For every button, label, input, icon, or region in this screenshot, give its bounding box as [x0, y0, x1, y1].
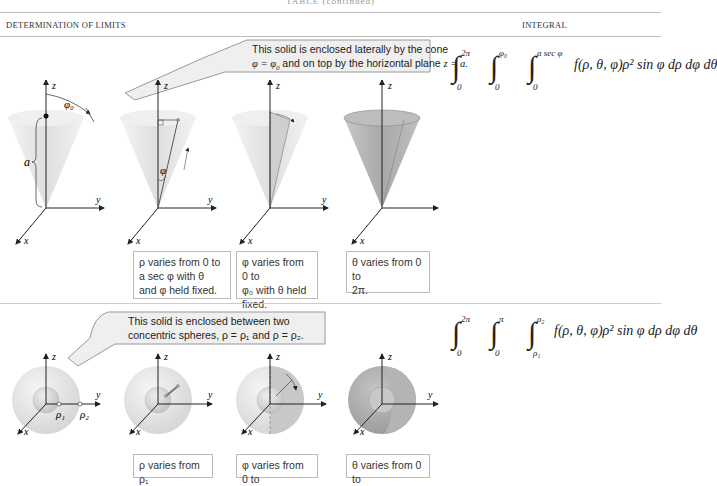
svg-text:y: y: [317, 389, 323, 400]
svg-text:z: z: [387, 351, 392, 362]
callout-cone: This solid is enclosed laterally by the …: [248, 40, 433, 72]
svg-text:x: x: [247, 235, 253, 246]
svg-text:x: x: [247, 426, 253, 437]
header-rule-bottom: [0, 36, 661, 37]
label-phi0: φ₀: [64, 98, 74, 110]
label-rho2: ρ₂: [79, 408, 89, 420]
svg-text:z: z: [163, 351, 168, 362]
callout-cone-line2: φ = φ0 and on top by the horizontal plan…: [252, 56, 429, 75]
callout-spheres-line1: This solid is enclosed between two: [128, 314, 324, 328]
label-y: y: [95, 194, 101, 205]
cone-figure-4: z x: [344, 80, 438, 246]
svg-text:z: z: [387, 80, 392, 91]
svg-text:z: z: [51, 351, 56, 362]
svg-text:y: y: [207, 194, 213, 205]
svg-text:z: z: [275, 351, 280, 362]
svg-text:z: z: [275, 80, 280, 91]
svg-text:x: x: [135, 426, 141, 437]
sphere-figure-3: z y x: [236, 351, 326, 437]
cone-figure-2: z φ y x: [120, 80, 216, 246]
caption-rho-spheres: ρ varies from ρ₁: [133, 454, 213, 478]
triple-integral-spheres: ∫2π0∫π0∫ρ₂ρ₁f(ρ, θ, φ)ρ² sin φ dρ dφ dθ: [452, 316, 697, 350]
sphere-figure-4: z y x: [348, 351, 438, 437]
callout-spheres-line2: concentric spheres, ρ = ρ₁ and ρ = ρ₂.: [128, 328, 324, 342]
label-rho1: ρ₁: [55, 408, 65, 420]
callout-cone-line1: This solid is enclosed laterally by the …: [252, 42, 429, 56]
sphere-figure-1: z y x ρ₁ ρ₂: [12, 351, 101, 437]
x-axis: [16, 208, 46, 244]
label-phi: φ: [160, 164, 166, 176]
sphere-figure-2: z y x: [124, 351, 213, 437]
label-x: x: [23, 235, 29, 246]
sphere-figures: z y x ρ₁ ρ₂ z y x z y x: [0, 350, 440, 450]
integrand-spheres: f(ρ, θ, φ)ρ² sin φ dρ dφ dθ: [554, 323, 697, 338]
section-divider: [0, 303, 661, 304]
cone-figures: z φ₀ a y x z φ y x z y x: [0, 80, 440, 250]
header-rule-top: [0, 12, 661, 13]
caption-theta-spheres: θ varies from 0 to: [346, 454, 430, 478]
svg-text:x: x: [135, 235, 141, 246]
running-header: TABLE (continued): [0, 0, 661, 6]
cone-figure-1: z φ₀ a y x: [8, 80, 104, 246]
label-a: a: [24, 155, 30, 169]
svg-text:x: x: [359, 426, 365, 437]
caption-phi-spheres: φ varies from 0 to: [236, 454, 318, 478]
svg-text:x: x: [359, 235, 365, 246]
label-z: z: [51, 80, 56, 91]
caption-phi-cone: φ varies from 0 to φ₀ with θ held fixed.: [236, 251, 318, 299]
column-head-limits: DETERMINATION OF LIMITS: [6, 20, 126, 30]
apex-point: [44, 114, 49, 119]
svg-text:y: y: [207, 389, 213, 400]
caption-theta-cone: θ varies from 0 to 2π.: [346, 251, 430, 293]
svg-text:z: z: [163, 80, 168, 91]
svg-text:x: x: [23, 426, 29, 437]
caption-rho-cone: ρ varies from 0 to a sec φ with θ and φ …: [133, 251, 231, 299]
svg-text:y: y: [321, 194, 327, 205]
svg-text:y: y: [427, 389, 433, 400]
callout-spheres: This solid is enclosed between two conce…: [126, 314, 326, 346]
triple-integral-cone: ∫2π0∫φ₀0∫a sec φ0f(ρ, θ, φ)ρ² sin φ dρ d…: [452, 50, 717, 84]
cone-figure-3: z y x: [232, 80, 328, 246]
svg-text:y: y: [95, 389, 101, 400]
column-head-integral: INTEGRAL: [522, 20, 567, 30]
